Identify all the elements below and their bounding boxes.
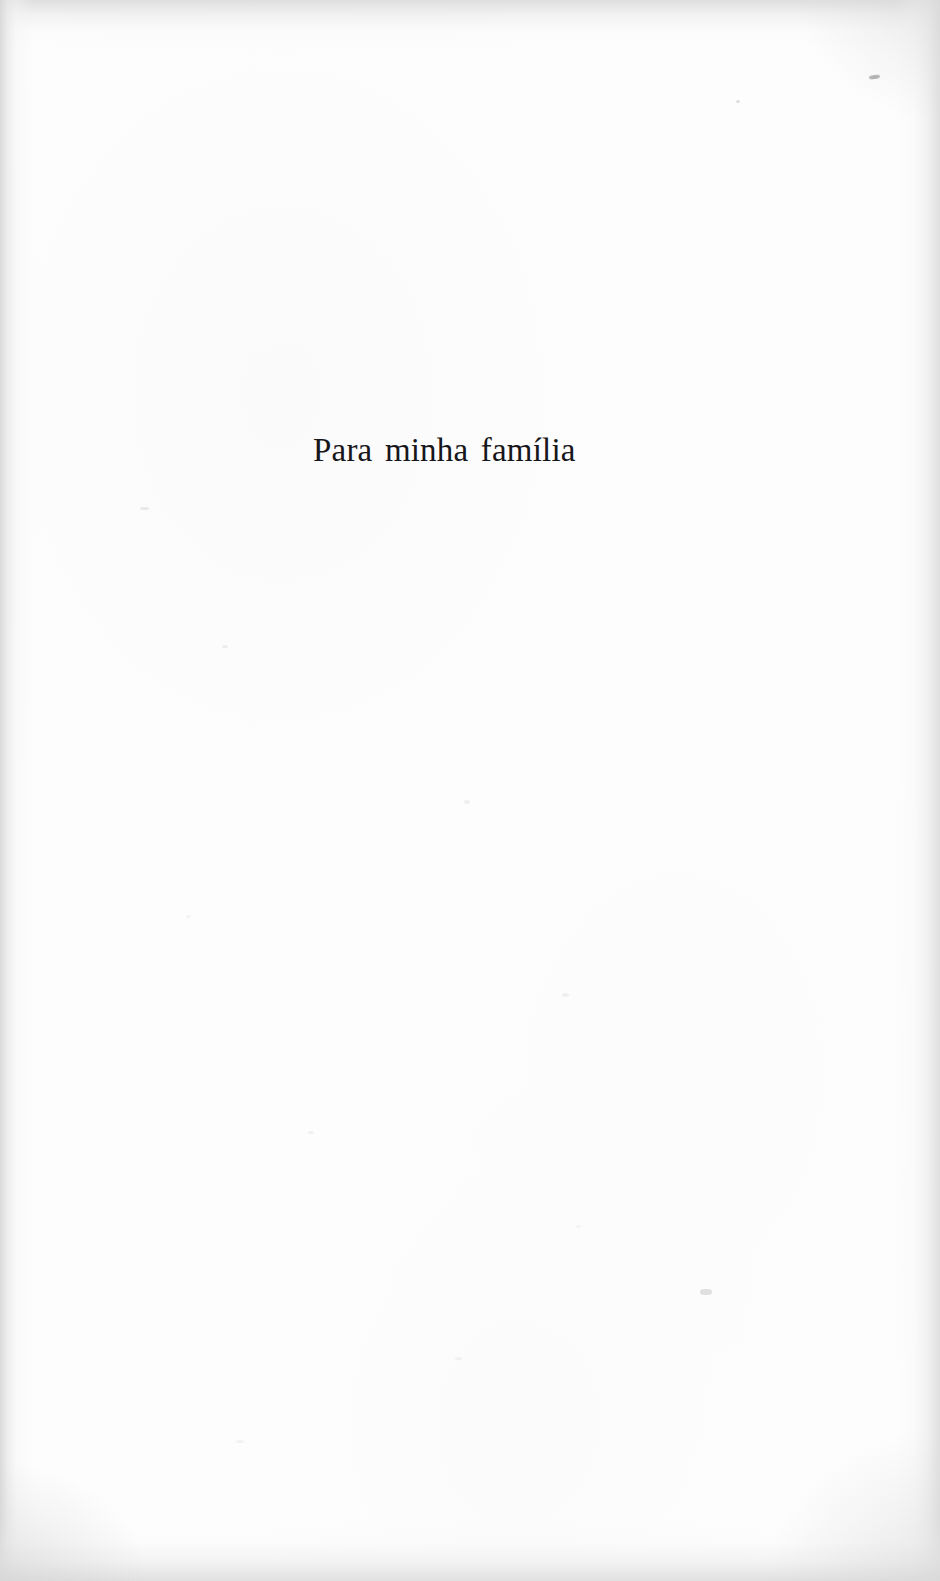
scan-speck <box>236 1440 244 1443</box>
scan-speck <box>562 993 569 997</box>
scan-edge-shadow-corner-bottom-left <box>0 1461 150 1581</box>
scan-speck <box>869 74 880 79</box>
scan-speck <box>464 800 470 804</box>
scan-speck <box>455 1357 462 1360</box>
scan-edge-shadow-bottom <box>0 1519 940 1581</box>
scan-speck <box>222 645 228 648</box>
scan-edge-shadow-corner-top-right <box>800 0 940 120</box>
scan-edge-shadow-left <box>0 0 34 1581</box>
scan-speck <box>140 507 149 510</box>
scan-edge-shadow-right <box>894 0 940 1581</box>
scan-speck <box>736 100 740 103</box>
paper-surface-texture <box>0 0 940 1581</box>
scan-speck <box>308 1131 314 1134</box>
scan-edge-shadow-top <box>0 0 940 52</box>
book-page: Para minha família <box>0 0 940 1581</box>
scan-edge-shadow-corner-bottom-right <box>770 1431 940 1581</box>
scan-speck <box>700 1289 712 1295</box>
dedication-text: Para minha família <box>313 431 543 469</box>
scan-speck <box>576 1225 581 1228</box>
scan-speck <box>186 915 191 918</box>
